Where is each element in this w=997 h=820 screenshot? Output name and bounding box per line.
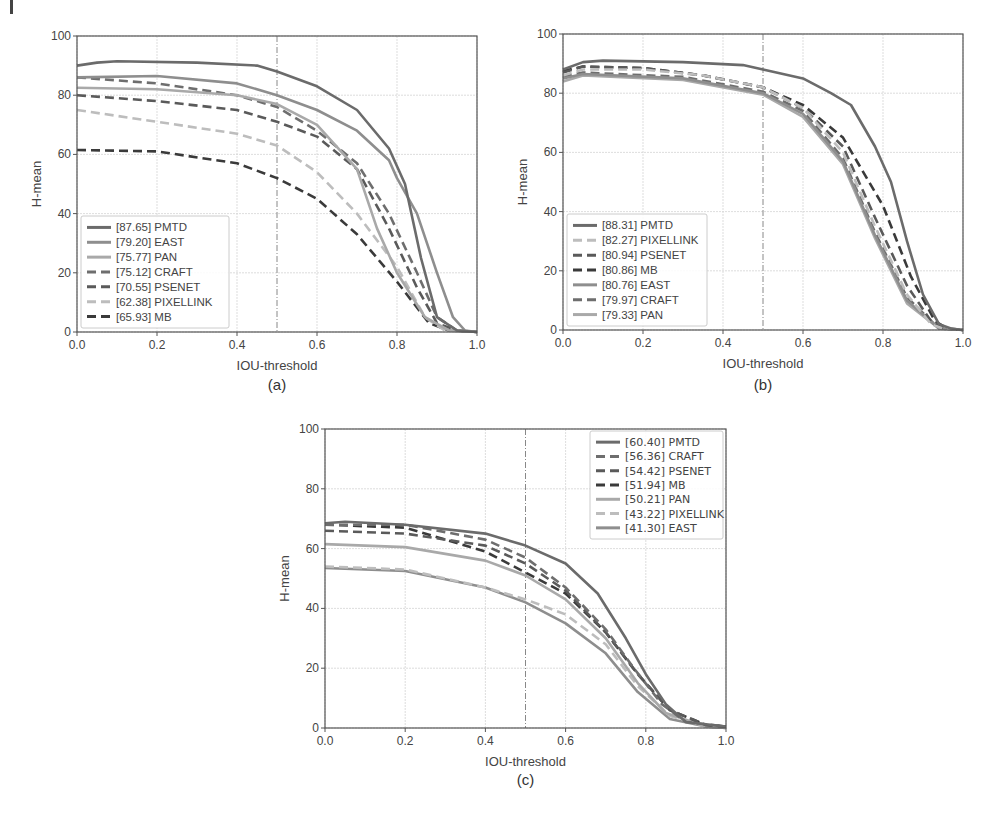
legend: [87.65] PMTD[79.20] EAST[75.77] PAN[75.1… bbox=[81, 216, 229, 328]
y-tick-label: 40 bbox=[306, 601, 320, 615]
chart-b: 0.00.20.40.60.81.0020406080100IOU-thresh… bbox=[515, 27, 972, 393]
legend-label-east: [41.30] EAST bbox=[625, 522, 697, 535]
legend-label-pmtd: [60.40] PMTD bbox=[625, 436, 700, 449]
x-tick-label: 0.0 bbox=[69, 338, 86, 352]
legend-label-pan: [75.77] PAN bbox=[116, 251, 177, 263]
x-tick-label: 0.4 bbox=[229, 338, 246, 352]
legend-label-pan: [79.33] PAN bbox=[602, 309, 663, 321]
legend-label-pan: [50.21] PAN bbox=[625, 493, 690, 506]
x-tick-label: 0.2 bbox=[635, 336, 652, 350]
legend-label-pixellink: [82.27] PIXELLINK bbox=[602, 234, 699, 246]
legend-label-craft: [79.97] CRAFT bbox=[602, 294, 679, 306]
x-tick-label: 0.4 bbox=[477, 734, 494, 748]
x-axis-label: IOU-threshold bbox=[485, 754, 566, 769]
legend-label-east: [80.76] EAST bbox=[602, 279, 670, 291]
y-tick-label: 0 bbox=[64, 325, 71, 339]
legend-label-psenet: [70.55] PSENET bbox=[116, 281, 200, 293]
legend-label-east: [79.20] EAST bbox=[116, 236, 184, 248]
legend-label-craft: [56.36] CRAFT bbox=[625, 450, 704, 463]
figure-canvas: 0.00.20.40.60.81.0020406080100IOU-thresh… bbox=[0, 0, 997, 820]
x-tick-label: 0.8 bbox=[637, 734, 654, 748]
legend-label-pmtd: [87.65] PMTD bbox=[116, 221, 187, 233]
x-tick-label: 0.0 bbox=[555, 336, 572, 350]
y-tick-label: 20 bbox=[544, 264, 558, 278]
x-tick-label: 0.2 bbox=[397, 734, 414, 748]
chart-caption: (b) bbox=[754, 376, 772, 393]
x-tick-label: 0.0 bbox=[317, 734, 334, 748]
legend-label-psenet: [54.42] PSENET bbox=[625, 465, 711, 478]
legend-label-pixellink: [62.38] PIXELLINK bbox=[116, 296, 213, 308]
x-tick-label: 0.6 bbox=[309, 338, 326, 352]
y-tick-label: 100 bbox=[51, 29, 71, 43]
x-tick-label: 1.0 bbox=[718, 734, 735, 748]
y-tick-label: 80 bbox=[544, 86, 558, 100]
legend-label-mb: [80.86] MB bbox=[602, 264, 658, 276]
y-axis-label: H-mean bbox=[29, 161, 44, 207]
x-axis-label: IOU-threshold bbox=[723, 356, 804, 371]
x-tick-label: 0.6 bbox=[557, 734, 574, 748]
x-tick-label: 0.8 bbox=[875, 336, 892, 350]
y-axis-label: H-mean bbox=[277, 555, 292, 601]
y-tick-label: 100 bbox=[299, 422, 319, 436]
y-tick-label: 20 bbox=[306, 661, 320, 675]
legend-label-mb: [65.93] MB bbox=[116, 311, 172, 323]
y-tick-label: 80 bbox=[306, 482, 320, 496]
legend-label-mb: [51.94] MB bbox=[625, 479, 686, 492]
legend-label-pixellink: [43.22] PIXELLINK bbox=[625, 508, 725, 521]
legend: [88.31] PMTD[82.27] PIXELLINK[80.94] PSE… bbox=[567, 214, 707, 326]
y-tick-label: 20 bbox=[58, 266, 72, 280]
y-tick-label: 80 bbox=[58, 88, 72, 102]
x-tick-label: 0.6 bbox=[795, 336, 812, 350]
x-tick-label: 0.2 bbox=[149, 338, 166, 352]
y-tick-label: 40 bbox=[544, 205, 558, 219]
y-tick-label: 60 bbox=[306, 542, 320, 556]
y-tick-label: 0 bbox=[550, 323, 557, 337]
x-tick-label: 1.0 bbox=[955, 336, 972, 350]
chart-c: 0.00.20.40.60.81.0020406080100IOU-thresh… bbox=[277, 422, 735, 788]
y-tick-label: 40 bbox=[58, 207, 72, 221]
y-axis-label: H-mean bbox=[515, 159, 530, 205]
chart-caption: (a) bbox=[268, 376, 286, 393]
legend: [60.40] PMTD[56.36] CRAFT[54.42] PSENET[… bbox=[590, 431, 725, 539]
y-tick-label: 60 bbox=[58, 147, 72, 161]
legend-label-pmtd: [88.31] PMTD bbox=[602, 219, 673, 231]
chart-caption: (c) bbox=[517, 771, 535, 788]
y-tick-label: 0 bbox=[312, 721, 319, 735]
y-tick-label: 100 bbox=[537, 27, 557, 41]
x-tick-label: 0.8 bbox=[389, 338, 406, 352]
chart-a: 0.00.20.40.60.81.0020406080100IOU-thresh… bbox=[29, 29, 486, 393]
x-tick-label: 0.4 bbox=[715, 336, 732, 350]
legend-label-craft: [75.12] CRAFT bbox=[116, 266, 193, 278]
legend-label-psenet: [80.94] PSENET bbox=[602, 249, 686, 261]
y-tick-label: 60 bbox=[544, 145, 558, 159]
x-tick-label: 1.0 bbox=[469, 338, 486, 352]
x-axis-label: IOU-threshold bbox=[237, 358, 318, 373]
series-line-pan bbox=[325, 544, 726, 728]
